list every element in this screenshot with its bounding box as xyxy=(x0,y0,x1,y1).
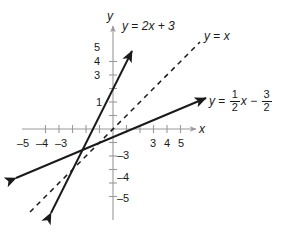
equation-label-line3-variable: x xyxy=(241,94,247,108)
x-tick-label-3: 3 xyxy=(150,138,156,149)
y-tick-label-neg5: –5 xyxy=(117,193,129,204)
equation-label-line3: y = 1 2 x − 3 2 xyxy=(209,90,273,114)
equation-label-line3-minus: − xyxy=(250,94,257,108)
x-tick-label-4: 4 xyxy=(164,138,170,149)
equation-label-line2: y = x xyxy=(204,30,230,42)
y-tick-label-1: 1 xyxy=(96,97,102,108)
y-tick-label-neg3: –3 xyxy=(117,150,129,161)
y-tick-label-5: 5 xyxy=(94,42,100,53)
constant-denominator: 2 xyxy=(262,101,272,114)
coordinate-plane xyxy=(0,0,294,233)
line-y-equals-x xyxy=(30,42,200,212)
y-tick-label-neg4: –4 xyxy=(117,172,129,183)
coefficient-denominator: 2 xyxy=(230,101,240,114)
x-tick-label-neg5: –5 xyxy=(17,138,29,149)
equation-label-line2-equals: = xyxy=(213,29,220,43)
x-tick-label-5: 5 xyxy=(178,138,184,149)
equation-label-line1-equals: = xyxy=(131,19,138,33)
line-y-equals-2x-plus-3 xyxy=(51,51,132,213)
equation-label-line3-coefficient-fraction: 1 2 xyxy=(230,89,240,113)
x-axis-label: x xyxy=(199,123,205,135)
equation-label-line3-constant-fraction: 3 2 xyxy=(262,89,272,113)
equation-label-line1: y = 2x + 3 xyxy=(122,20,175,32)
y-tick-label-4: 4 xyxy=(94,56,100,67)
equation-label-line2-rhs: x xyxy=(224,29,230,43)
equation-label-line1-lhs: y xyxy=(122,19,128,33)
equation-label-line3-equals: = xyxy=(218,94,225,108)
equation-label-line3-lhs: y xyxy=(209,94,215,108)
axis-lines xyxy=(22,26,196,220)
constant-numerator: 3 xyxy=(262,89,272,101)
equation-label-line2-lhs: y xyxy=(204,29,210,43)
y-tick-label-3: 3 xyxy=(94,70,100,81)
equation-label-line1-rhs: 2x + 3 xyxy=(142,19,175,33)
x-tick-label-neg3: –3 xyxy=(55,138,67,149)
coefficient-numerator: 1 xyxy=(230,89,240,101)
y-axis-label: y xyxy=(107,10,113,22)
graph-figure: y x 5 4 3 1 –3 –4 –5 –5 –4 –3 3 4 5 y = … xyxy=(0,0,294,233)
x-tick-label-neg4: –4 xyxy=(36,138,48,149)
